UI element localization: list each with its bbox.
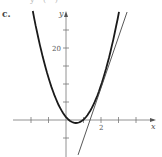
y-axis-label: y	[58, 9, 64, 18]
tangent-line	[78, 12, 127, 155]
y-tick-label: 20	[52, 45, 61, 53]
parabola-curve	[33, 11, 119, 123]
x-tick-label: 2	[99, 124, 103, 132]
plot-area: 220xy	[0, 0, 162, 157]
y-axis-arrow-icon	[64, 11, 68, 17]
x-axis-label: x	[151, 122, 156, 131]
